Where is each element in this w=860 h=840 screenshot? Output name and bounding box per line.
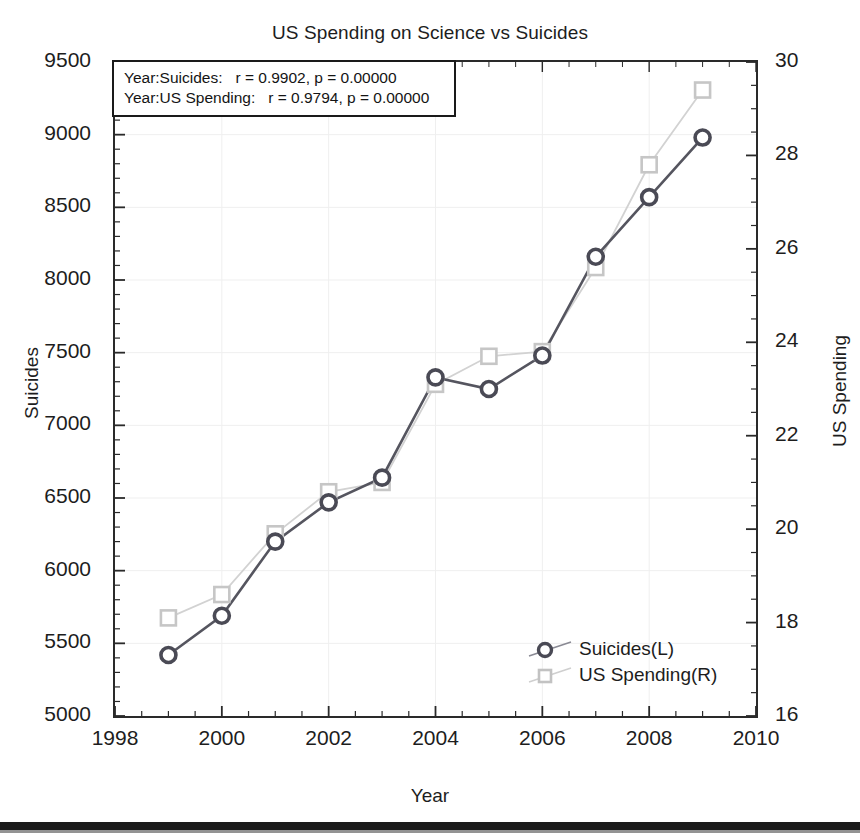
legend-marker-square-icon	[527, 664, 573, 686]
x-axis-tick-label: 1998	[55, 726, 175, 750]
x-axis-tick-label: 2010	[696, 726, 816, 750]
stats-line-spending: Year:US Spending: r = 0.9794, p = 0.0000…	[124, 88, 446, 108]
y-axis-left-tick-label: 6500	[44, 484, 91, 508]
page-title: US Spending on Science vs Suicides	[0, 22, 860, 44]
scan-artifact-bar-secondary	[0, 830, 860, 833]
legend: Suicides(L) US Spending(R)	[527, 636, 717, 688]
x-axis-title: Year	[0, 785, 860, 807]
legend-item-suicides: Suicides(L)	[527, 636, 717, 662]
plot-area	[113, 60, 758, 718]
y-axis-left-tick-label: 7500	[44, 339, 91, 363]
x-axis-tick-label: 2004	[376, 726, 496, 750]
y-axis-left-tick-label: 7000	[44, 411, 91, 435]
y-axis-left-tick-label: 9000	[44, 121, 91, 145]
x-axis-tick-label: 2002	[269, 726, 389, 750]
legend-marker-circle-icon	[527, 638, 573, 660]
plot-svg	[115, 62, 756, 716]
y-axis-left-tick-label: 6000	[44, 557, 91, 581]
legend-item-spending: US Spending(R)	[527, 662, 717, 688]
y-axis-right-tick-label: 26	[775, 235, 798, 259]
y-axis-right-tick-label: 28	[775, 141, 798, 165]
y-axis-right-tick-label: 16	[775, 702, 798, 726]
y-axis-left-tick-label: 9500	[44, 48, 91, 72]
x-axis-tick-label: 2008	[589, 726, 709, 750]
correlation-stats-box: Year:Suicides: r = 0.9902, p = 0.00000 Y…	[112, 60, 456, 117]
y-axis-right-tick-label: 30	[775, 48, 798, 72]
y-axis-left-title: Suicides	[21, 323, 43, 443]
x-axis-tick-label: 2006	[482, 726, 602, 750]
y-axis-left-tick-label: 8500	[44, 193, 91, 217]
x-axis-tick-label: 2000	[162, 726, 282, 750]
y-axis-right-tick-label: 22	[775, 422, 798, 446]
y-axis-left-tick-label: 8000	[44, 266, 91, 290]
y-axis-left-tick-label: 5500	[44, 629, 91, 653]
y-axis-right-tick-label: 18	[775, 609, 798, 633]
y-axis-right-tick-label: 24	[775, 328, 798, 352]
y-axis-left-tick-label: 5000	[44, 702, 91, 726]
y-axis-right-title: US Spending	[829, 311, 851, 471]
chart-canvas: US Spending on Science vs Suicides Suici…	[0, 0, 860, 840]
y-axis-right-tick-label: 20	[775, 515, 798, 539]
legend-label-suicides: Suicides(L)	[579, 638, 674, 660]
legend-label-spending: US Spending(R)	[579, 664, 717, 686]
scan-artifact-bar	[0, 822, 860, 830]
stats-line-suicides: Year:Suicides: r = 0.9902, p = 0.00000	[124, 68, 446, 88]
